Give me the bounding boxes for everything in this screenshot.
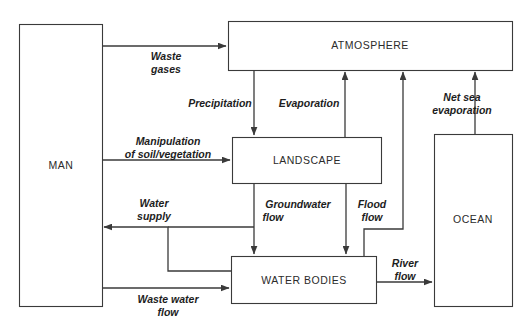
flow-label-evaporation: Evaporation (279, 97, 340, 109)
flow-label-net-sea-evaporation-line2: evaporation (432, 104, 492, 116)
flow-label-groundwater-flow-line1: Groundwater (265, 198, 331, 210)
flowline-water-supply (104, 227, 231, 271)
flow-label-river-flow-line1: River (392, 257, 419, 269)
flow-label-groundwater-flow-line2: flow (263, 211, 285, 223)
flow-label-manipulation-line1: Manipulation (136, 135, 201, 147)
flow-label-waste-gases-line2: gases (150, 63, 181, 75)
node-label-water-bodies: WATER BODIES (261, 274, 346, 286)
flow-label-waste-water-flow-line2: flow (158, 306, 180, 318)
flow-label-flood-flow-line2: flow (362, 211, 384, 223)
flow-label-water-supply-line2: supply (137, 210, 172, 222)
flow-label-waste-water-flow-line1: Waste water (137, 293, 199, 305)
node-label-atmosphere: ATMOSPHERE (331, 39, 409, 51)
node-label-landscape: LANDSCAPE (273, 154, 341, 166)
flow-label-manipulation-line2: of soil/vegetation (125, 148, 211, 160)
water-cycle-diagram: MAN ATMOSPHERE LANDSCAPE WATER BODIES OC… (0, 0, 529, 327)
flow-label-waste-gases-line1: Waste (151, 50, 182, 62)
flow-label-flood-flow-line1: Flood (358, 198, 387, 210)
flow-label-river-flow-line2: flow (395, 270, 417, 282)
flow-label-net-sea-evaporation-line1: Net sea (443, 91, 481, 103)
node-label-man: MAN (49, 159, 74, 171)
flow-label-water-supply-line1: Water (140, 197, 170, 209)
node-label-ocean: OCEAN (453, 213, 493, 225)
diagram-canvas: MAN ATMOSPHERE LANDSCAPE WATER BODIES OC… (0, 0, 529, 327)
flow-label-precipitation: Precipitation (188, 97, 252, 109)
